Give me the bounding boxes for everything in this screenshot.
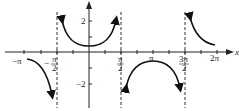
y-axis [86, 1, 92, 108]
label-neg-pi-half-den: 2 [52, 63, 57, 73]
label-two-pi: 2π [210, 53, 220, 63]
label-three-pi-half-den: 2 [182, 63, 187, 73]
label-neg-pi: −π [12, 56, 22, 66]
x-tick-labels: −π − π 2 π 2 π 3π 2 2π x [12, 47, 239, 73]
label-pi-half-den: 2 [118, 63, 123, 73]
x-axis-label: x [234, 47, 239, 57]
label-neg-sign: − [44, 58, 49, 68]
branch-3 [126, 61, 180, 88]
label-y-neg-two: −2 [76, 79, 86, 89]
secant-chart: −π − π 2 π 2 π 3π 2 2π x 2 −2 [0, 0, 239, 111]
label-y-two: 2 [81, 16, 86, 26]
label-pi: π [149, 53, 154, 63]
branch-4 [190, 17, 215, 45]
